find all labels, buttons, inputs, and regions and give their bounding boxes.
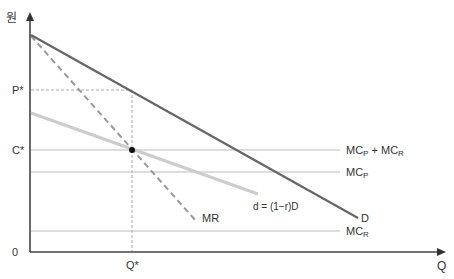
marginal-revenue-curve [31,36,197,222]
demand-curve [31,35,358,218]
x-axis-label: Q [437,259,446,273]
equilibrium-point [129,147,135,153]
y-axis-arrow-icon [26,12,34,21]
mr-label: MR [202,212,219,224]
mc-r-label: MCR [346,225,369,239]
q-star-label: Q* [126,259,140,271]
x-axis-arrow-icon [437,248,446,256]
mc-total-label: MCP + MCR [346,144,404,158]
residual-demand-curve [31,113,258,194]
p-star-label: P* [12,84,24,96]
pricing-diagram: 원 Q 0 P* C* Q* D MR d = (1−r)D MCP + MCR… [0,0,454,279]
demand-label: D [361,212,369,224]
origin-label: 0 [12,246,18,258]
mc-p-label: MCP [346,166,368,180]
y-axis-label: 원 [6,11,17,25]
residual-demand-label: d = (1−r)D [253,201,299,212]
c-star-label: C* [12,144,25,156]
